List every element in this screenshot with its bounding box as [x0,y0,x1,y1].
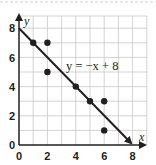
data-point [73,83,79,89]
equation-label: y = −x + 8 [66,59,118,73]
y-tick: 8 [9,22,15,34]
data-point [44,40,50,46]
data-point [101,127,107,133]
y-tick-labels: 0 2 4 6 8 [9,22,16,151]
data-point [30,40,36,46]
x-tick: 4 [73,150,80,162]
y-tick: 4 [9,81,16,93]
x-axis-label: x [138,130,145,144]
x-tick-labels: 0 2 4 6 8 [16,150,136,162]
data-point [87,98,93,104]
x-tick: 2 [44,150,50,162]
x-tick: 0 [16,150,22,162]
x-tick: 8 [130,150,136,162]
scatter-chart: x y 0 2 4 6 8 0 2 4 6 8 y = −x + 8 [0,0,156,165]
data-point [44,69,50,75]
y-tick: 0 [9,139,15,151]
y-axis-label: y [23,14,30,28]
data-point [101,98,107,104]
y-tick: 6 [9,52,15,64]
grid [19,16,147,145]
y-tick: 2 [9,110,15,122]
x-tick: 6 [101,150,107,162]
